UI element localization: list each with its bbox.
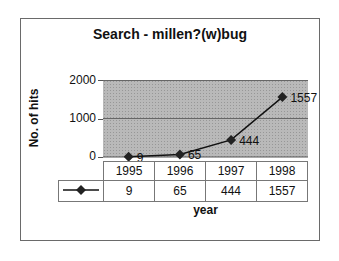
header-cell-1997: 1997 xyxy=(206,162,257,181)
value-cell-1998: 1557 xyxy=(257,181,308,202)
legend-key xyxy=(59,181,104,202)
value-cell-1996: 65 xyxy=(155,181,206,202)
data-table-values-row: 9 65 444 1557 xyxy=(59,181,308,202)
header-cell-1995: 1995 xyxy=(104,162,155,181)
x-axis-label: year xyxy=(103,203,308,217)
value-cell-1997: 444 xyxy=(206,181,257,202)
line-series: 9654441557 xyxy=(0,0,339,261)
data-table-header-row: 1995 1996 1997 1998 xyxy=(59,162,308,181)
blank-cell xyxy=(59,162,104,181)
header-cell-1996: 1996 xyxy=(155,162,206,181)
data-point-marker xyxy=(175,149,185,159)
data-label: 444 xyxy=(239,134,259,148)
header-cell-1998: 1998 xyxy=(257,162,308,181)
data-table: 1995 1996 1997 1998 9 65 444 1557 xyxy=(58,161,308,202)
data-label: 1557 xyxy=(290,91,317,105)
value-cell-1995: 9 xyxy=(104,181,155,202)
diamond-marker-icon xyxy=(59,181,103,198)
